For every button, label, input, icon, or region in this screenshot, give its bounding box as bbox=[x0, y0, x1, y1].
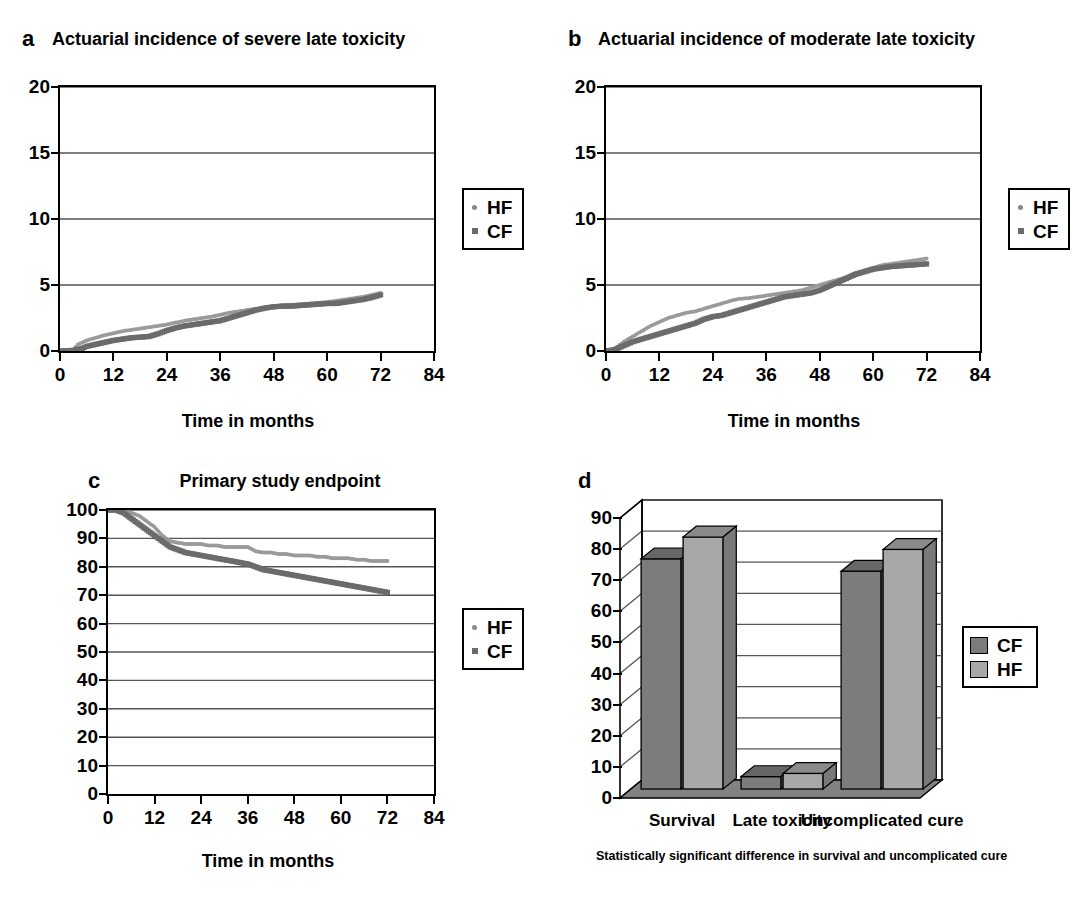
legend-label-cf: CF bbox=[1033, 222, 1058, 241]
panel-a-title: Actuarial incidence of severe late toxic… bbox=[52, 30, 405, 48]
x-tick-mark bbox=[112, 352, 114, 361]
x-tick-mark bbox=[605, 352, 607, 361]
panel-d-letter: d bbox=[578, 470, 591, 492]
y-tick-mark bbox=[51, 152, 59, 154]
y-tick-mark bbox=[99, 651, 107, 653]
legend-item-hf: HF bbox=[470, 615, 513, 639]
x-tick-mark bbox=[340, 795, 342, 804]
x-tick-mark bbox=[326, 352, 328, 361]
x-tick-mark bbox=[154, 795, 156, 804]
y-tick-label: 0 bbox=[554, 788, 612, 807]
y-tick-label: 0 bbox=[54, 784, 98, 803]
x-tick-label: 24 bbox=[176, 808, 226, 827]
y-tick-mark bbox=[613, 704, 622, 706]
panel-a-letter: a bbox=[22, 28, 34, 50]
y-tick-mark bbox=[99, 509, 107, 511]
legend-label-cf: CF bbox=[487, 642, 512, 661]
y-tick-label: 20 bbox=[6, 77, 50, 96]
y-tick-label: 50 bbox=[54, 642, 98, 661]
x-tick-mark bbox=[433, 795, 435, 804]
hf-marker-icon bbox=[1018, 205, 1023, 210]
x-tick-mark bbox=[247, 795, 249, 804]
cf-swatch-icon bbox=[970, 637, 988, 654]
x-tick-label: 36 bbox=[195, 365, 245, 384]
y-tick-mark bbox=[51, 284, 59, 286]
y-tick-label: 70 bbox=[54, 585, 98, 604]
y-tick-label: 15 bbox=[6, 143, 50, 162]
y-tick-label: 40 bbox=[54, 670, 98, 689]
y-tick-label: 5 bbox=[552, 275, 596, 294]
x-tick-mark bbox=[107, 795, 109, 804]
x-tick-label: 0 bbox=[35, 365, 85, 384]
panel-b-plot-area bbox=[604, 85, 982, 353]
legend-label-hf: HF bbox=[487, 198, 512, 217]
panel-b-legend: HF CF bbox=[1008, 188, 1070, 250]
x-tick-label: 72 bbox=[362, 808, 412, 827]
cf-marker-icon bbox=[472, 648, 478, 654]
y-tick-mark bbox=[613, 766, 622, 768]
y-tick-mark bbox=[613, 797, 622, 799]
x-tick-label: 60 bbox=[848, 365, 898, 384]
cf-marker-icon bbox=[472, 228, 478, 234]
legend-label-cf: CF bbox=[997, 636, 1022, 655]
panel-d-legend: CF HF bbox=[962, 626, 1038, 688]
x-tick-mark bbox=[386, 795, 388, 804]
panel-c-plot-area bbox=[106, 508, 436, 796]
legend-label-cf: CF bbox=[487, 222, 512, 241]
y-tick-label: 30 bbox=[54, 699, 98, 718]
y-tick-label: 40 bbox=[554, 664, 612, 683]
panel-c-title: Primary study endpoint bbox=[150, 472, 410, 490]
x-tick-label: 12 bbox=[634, 365, 684, 384]
y-tick-mark bbox=[51, 86, 59, 88]
y-tick-mark bbox=[613, 641, 622, 643]
panel-c-curves bbox=[108, 510, 434, 794]
x-tick-mark bbox=[433, 352, 435, 361]
y-tick-mark bbox=[99, 765, 107, 767]
legend-label-hf: HF bbox=[487, 618, 512, 637]
x-tick-mark bbox=[200, 795, 202, 804]
y-tick-label: 30 bbox=[554, 695, 612, 714]
y-tick-mark bbox=[597, 218, 605, 220]
legend-item-cf: CF bbox=[970, 633, 1027, 657]
y-tick-label: 20 bbox=[54, 727, 98, 746]
y-tick-mark bbox=[99, 594, 107, 596]
y-tick-label: 0 bbox=[6, 341, 50, 360]
x-tick-label: 60 bbox=[302, 365, 352, 384]
series-cf bbox=[606, 261, 929, 351]
legend-item-hf: HF bbox=[970, 657, 1027, 681]
y-tick-mark bbox=[613, 548, 622, 550]
x-tick-label: 84 bbox=[409, 365, 459, 384]
y-tick-mark bbox=[99, 537, 107, 539]
y-tick-label: 80 bbox=[554, 539, 612, 558]
panel-b-x-axis-title: Time in months bbox=[694, 412, 894, 430]
y-tick-label: 50 bbox=[554, 632, 612, 651]
y-tick-label: 90 bbox=[54, 528, 98, 547]
series-cf bbox=[60, 292, 383, 351]
y-tick-mark bbox=[613, 735, 622, 737]
x-tick-label: 12 bbox=[130, 808, 180, 827]
y-tick-mark bbox=[613, 579, 622, 581]
legend-label-hf: HF bbox=[1033, 198, 1058, 217]
x-tick-mark bbox=[658, 352, 660, 361]
y-tick-label: 15 bbox=[552, 143, 596, 162]
y-tick-label: 10 bbox=[6, 209, 50, 228]
y-tick-label: 0 bbox=[552, 341, 596, 360]
y-tick-mark bbox=[99, 793, 107, 795]
x-tick-mark bbox=[293, 795, 295, 804]
y-tick-label: 90 bbox=[554, 508, 612, 527]
x-tick-mark bbox=[926, 352, 928, 361]
y-tick-label: 60 bbox=[554, 601, 612, 620]
x-tick-label: 12 bbox=[88, 365, 138, 384]
y-tick-label: 60 bbox=[54, 614, 98, 633]
y-tick-mark bbox=[597, 152, 605, 154]
x-tick-label: 48 bbox=[249, 365, 299, 384]
x-tick-label: 0 bbox=[83, 808, 133, 827]
y-tick-label: 10 bbox=[554, 757, 612, 776]
x-tick-mark bbox=[219, 352, 221, 361]
legend-label-hf: HF bbox=[997, 660, 1022, 679]
legend-item-cf: CF bbox=[1016, 219, 1059, 243]
y-tick-mark bbox=[613, 610, 622, 612]
legend-item-cf: CF bbox=[470, 219, 513, 243]
panel-b-curves bbox=[606, 87, 980, 351]
hf-swatch-icon bbox=[970, 661, 988, 678]
